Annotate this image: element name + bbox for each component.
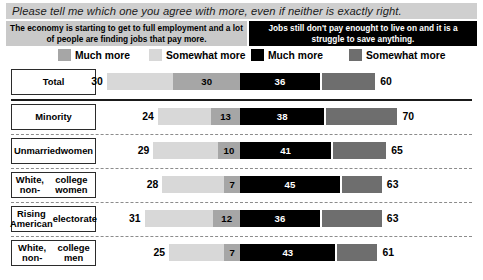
bar-left-much: 30 (173, 73, 240, 90)
question-banner: Please tell me which one you agree with … (6, 3, 477, 19)
row-plot: 13382470 (0, 101, 483, 134)
bar-left-much: 12 (213, 210, 240, 227)
bar-left-much: 7 (224, 176, 240, 193)
legend-swatch-icon-right-much (251, 49, 264, 61)
chart-row: White, non-college women7452863 (0, 169, 483, 202)
bar-left-much: 10 (218, 142, 240, 159)
statement-headers: The economy is starting to get to full e… (6, 21, 477, 46)
legend-item-right-somewhat: Somewhat more (349, 48, 446, 62)
legend-label-right-much: Much more (268, 50, 323, 61)
row-value-right-total: 63 (387, 210, 415, 227)
bar-left-much: 13 (211, 108, 240, 125)
legend-item-right-much: Much more (251, 48, 323, 62)
legend-swatch-icon-left-much (58, 49, 71, 61)
row-plot: 7452863 (0, 169, 483, 202)
bar-right-much: 36 (240, 73, 320, 90)
chart-row: Minority13382470 (0, 101, 483, 134)
bar-left-somewhat (145, 210, 214, 227)
row-plot: 10412965 (0, 135, 483, 168)
legend: Much more Somewhat more Much more Somewh… (6, 48, 477, 64)
legend-label-right-somewhat: Somewhat more (366, 50, 446, 61)
row-value-right-total: 65 (391, 142, 419, 159)
bar-left-somewhat (153, 142, 217, 159)
question-text: Please tell me which one you agree with … (6, 5, 402, 17)
row-value-left-total: 31 (115, 210, 141, 227)
bar-right-somewhat (326, 108, 397, 125)
row-value-right-total: 60 (380, 73, 408, 90)
bar-right-somewhat (322, 73, 375, 90)
bar-left-somewhat (158, 108, 211, 125)
row-value-left-total: 24 (128, 108, 154, 125)
bar-right-much: 45 (240, 176, 340, 193)
statement-right: Jobs still don't pay enought to live on … (249, 21, 477, 46)
row-plot: 12363163 (0, 203, 483, 236)
bar-right-much: 38 (240, 108, 324, 125)
row-value-left-total: 30 (77, 73, 103, 90)
chart-row: Total30363060 (0, 66, 483, 99)
bar-left-somewhat (162, 176, 224, 193)
legend-label-left-much: Much more (75, 50, 130, 61)
row-value-left-total: 29 (123, 142, 149, 159)
legend-swatch-icon-right-somewhat (349, 49, 362, 61)
legend-item-left-somewhat: Somewhat more (149, 48, 246, 62)
row-value-right-total: 70 (402, 108, 430, 125)
legend-label-left-somewhat: Somewhat more (166, 50, 246, 61)
row-value-right-total: 61 (382, 244, 410, 261)
chart-row: Unmarriedwomen10412965 (0, 135, 483, 168)
chart-row: Rising Americanelectorate12363163 (0, 203, 483, 236)
bar-right-much: 43 (240, 244, 335, 261)
bar-right-somewhat (342, 176, 382, 193)
bar-right-much: 41 (240, 142, 331, 159)
chart-rows: Total30363060Minority13382470Unmarriedwo… (0, 66, 483, 270)
bar-right-somewhat (333, 142, 386, 159)
statement-left: The economy is starting to get to full e… (6, 21, 247, 46)
chart-row: White, non-college men7432561 (0, 237, 483, 270)
row-plot: 30363060 (0, 66, 483, 99)
bar-right-much: 36 (240, 210, 320, 227)
bar-left-somewhat (169, 244, 225, 261)
bar-right-somewhat (322, 210, 382, 227)
row-plot: 7432561 (0, 237, 483, 270)
row-value-right-total: 63 (387, 176, 415, 193)
legend-item-left-much: Much more (58, 48, 130, 62)
row-value-left-total: 28 (132, 176, 158, 193)
bar-right-somewhat (337, 244, 377, 261)
legend-swatch-icon-left-somewhat (149, 49, 162, 61)
row-value-left-total: 25 (139, 244, 165, 261)
bar-left-much: 7 (224, 244, 240, 261)
bar-left-somewhat (107, 73, 174, 90)
